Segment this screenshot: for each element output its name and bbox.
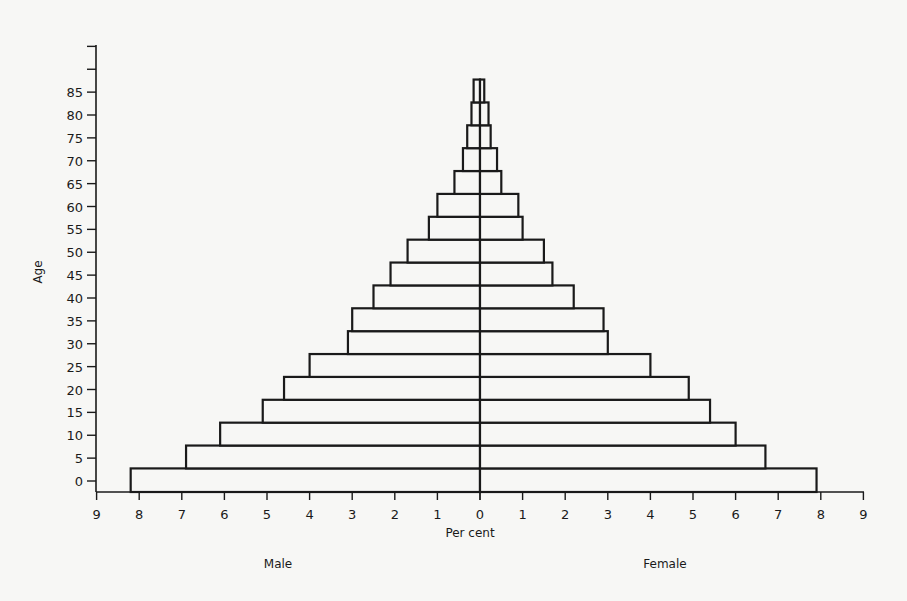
y-tick-label: 80 xyxy=(66,108,83,123)
x-tick-label: 9 xyxy=(859,507,867,522)
male-bar-50-54 xyxy=(408,240,480,263)
x-tick-label: 8 xyxy=(817,507,825,522)
x-tick-label: 4 xyxy=(646,507,654,522)
female-bar-50-54 xyxy=(480,240,544,263)
x-tick-label: 6 xyxy=(220,507,228,522)
female-bar-20-24 xyxy=(480,377,689,400)
x-tick-label: 5 xyxy=(263,507,271,522)
x-tick-label: 4 xyxy=(305,507,313,522)
male-bar-40-44 xyxy=(374,285,481,308)
y-tick-label: 40 xyxy=(66,291,83,306)
male-bar-70-74 xyxy=(463,148,480,171)
y-tick-label: 30 xyxy=(66,337,83,352)
female-label: Female xyxy=(643,557,686,571)
female-bar-5-9 xyxy=(480,446,765,469)
male-bar-45-49 xyxy=(391,263,480,286)
x-tick-label: 2 xyxy=(391,507,399,522)
male-bar-35-39 xyxy=(352,308,480,331)
y-tick-label: 60 xyxy=(66,200,83,215)
y-tick-label: 75 xyxy=(66,131,83,146)
male-bar-80-84 xyxy=(471,102,480,125)
male-bar-25-29 xyxy=(310,354,480,377)
y-tick-label: 50 xyxy=(66,245,83,260)
y-tick-label: 85 xyxy=(66,85,83,100)
x-tick-label: 9 xyxy=(92,507,100,522)
x-tick-label: 3 xyxy=(604,507,612,522)
y-tick-label: 65 xyxy=(66,177,83,192)
x-tick-label: 7 xyxy=(774,507,782,522)
male-bar-15-19 xyxy=(263,400,480,423)
female-bar-55-59 xyxy=(480,217,523,240)
female-bar-0-4 xyxy=(480,468,817,492)
female-bar-45-49 xyxy=(480,263,552,286)
male-bar-20-24 xyxy=(284,377,480,400)
male-bar-60-64 xyxy=(437,194,480,217)
population-pyramid-chart: 0510152025303540455055606570758085987654… xyxy=(0,0,907,601)
y-tick-label: 5 xyxy=(75,451,83,466)
bars-group xyxy=(131,80,817,492)
male-bar-5-9 xyxy=(186,446,480,469)
male-bar-65-69 xyxy=(454,171,480,194)
y-tick-label: 20 xyxy=(66,383,83,398)
x-tick-label: 8 xyxy=(135,507,143,522)
female-bar-60-64 xyxy=(480,194,518,217)
female-bar-25-29 xyxy=(480,354,650,377)
female-bar-85+ xyxy=(480,80,484,103)
female-bar-80-84 xyxy=(480,102,489,125)
male-bar-0-4 xyxy=(131,468,480,492)
male-bar-55-59 xyxy=(429,217,480,240)
male-bar-75-79 xyxy=(467,125,480,148)
y-tick-label: 35 xyxy=(66,314,83,329)
y-tick-label: 10 xyxy=(66,428,83,443)
x-tick-label: 5 xyxy=(689,507,697,522)
male-label: Male xyxy=(264,557,292,571)
female-bar-15-19 xyxy=(480,400,710,423)
y-axis-label: Age xyxy=(31,260,45,283)
y-tick-label: 25 xyxy=(66,360,83,375)
x-axis-label: Per cent xyxy=(445,526,495,540)
y-tick-label: 45 xyxy=(66,268,83,283)
y-tick-label: 55 xyxy=(66,222,83,237)
female-bar-35-39 xyxy=(480,308,604,331)
female-bar-75-79 xyxy=(480,125,491,148)
female-bar-40-44 xyxy=(480,285,574,308)
male-bar-10-14 xyxy=(220,423,480,446)
y-tick-label: 15 xyxy=(66,405,83,420)
x-tick-label: 1 xyxy=(433,507,441,522)
female-bar-10-14 xyxy=(480,423,736,446)
x-tick-label: 2 xyxy=(561,507,569,522)
y-tick-label: 70 xyxy=(66,154,83,169)
female-bar-30-34 xyxy=(480,331,608,354)
x-tick-label: 1 xyxy=(518,507,526,522)
x-tick-label: 6 xyxy=(731,507,739,522)
female-bar-70-74 xyxy=(480,148,497,171)
x-tick-label: 3 xyxy=(348,507,356,522)
x-tick-label: 0 xyxy=(476,507,484,522)
x-tick-label: 7 xyxy=(178,507,186,522)
male-bar-30-34 xyxy=(348,331,480,354)
y-tick-label: 0 xyxy=(75,474,83,489)
female-bar-65-69 xyxy=(480,171,501,194)
